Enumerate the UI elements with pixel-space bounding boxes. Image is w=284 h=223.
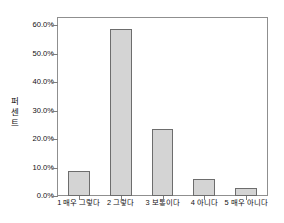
y-axis-tick-mark [52, 168, 58, 169]
y-axis-tick-label: 0.0% [18, 192, 54, 200]
y-axis-tick-label: 20.0% [18, 135, 54, 143]
bar [193, 179, 215, 196]
y-axis-tick-mark [52, 196, 58, 197]
y-axis-tick-label: 10.0% [18, 164, 54, 172]
y-axis-tick-labels: 0.0%10.0%20.0%30.0%40.0%50.0%60.0% [18, 14, 54, 204]
y-axis-tick-label: 30.0% [18, 107, 54, 115]
x-axis-tick-labels: 1 매우 그렇다2 그렇다3 보통이다4 아니다5 매우 아니다 [57, 198, 268, 212]
bar-chart-figure: 퍼 센 트 0.0%10.0%20.0%30.0%40.0%50.0%60.0%… [0, 0, 284, 223]
y-axis-tick-mark [52, 111, 58, 112]
bar [68, 171, 90, 196]
x-axis-tick-mark [79, 196, 80, 200]
x-axis-tick-mark [163, 196, 164, 200]
bar [152, 129, 174, 196]
y-axis-tick-mark [52, 139, 58, 140]
bar [110, 29, 132, 196]
y-axis-tick-label: 40.0% [18, 78, 54, 86]
bar [235, 188, 257, 196]
y-axis-tick-label: 50.0% [18, 50, 54, 58]
y-axis-tick-mark [52, 54, 58, 55]
y-axis-tick-mark [52, 82, 58, 83]
x-axis-tick-mark [246, 196, 247, 200]
x-axis-tick-mark [204, 196, 205, 200]
bars-layer [58, 18, 267, 196]
y-axis-tick-label: 60.0% [18, 21, 54, 29]
x-axis-tick-mark [121, 196, 122, 200]
y-axis-tick-mark [52, 25, 58, 26]
